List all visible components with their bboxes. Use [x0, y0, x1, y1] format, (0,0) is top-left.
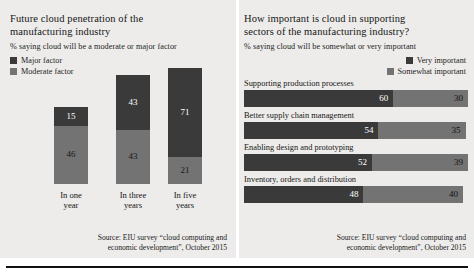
bar-value-very-important: 48	[349, 190, 358, 199]
x-axis-label-in-one-year: In one year	[45, 190, 97, 210]
bar-value-very-important: 52	[358, 158, 367, 167]
bar-value-moderate: 43	[129, 152, 138, 161]
bar-segment-major: 43	[116, 75, 150, 129]
bar-value-very-important: 54	[364, 126, 373, 135]
figure-page: Future cloud penetration of the manufact…	[0, 0, 474, 275]
left-chart-source: Source: EIU survey “cloud computing and …	[98, 233, 227, 252]
bar-row: 60 30	[244, 90, 468, 107]
bar-group-better-supply-chain-management: Better supply chain management 54 35	[244, 110, 468, 139]
bar-segment-very-important: 52	[244, 154, 372, 171]
bar-group-enabling-design-and-prototyping: Enabling design and prototyping 52 39	[244, 142, 468, 171]
bar-column-in-five-years: 71 21	[168, 68, 202, 184]
bar-value-major: 43	[129, 98, 138, 107]
bar-segment-major: 15	[54, 107, 88, 126]
right-chart-title-line1: How important is cloud in supporting	[244, 13, 405, 24]
legend-label-very-important: Very important	[417, 56, 466, 65]
bar-category-label: Inventory, orders and distribution	[244, 174, 468, 185]
bar-group-inventory-orders-and-distribution: Inventory, orders and distribution 48 40	[244, 174, 468, 203]
legend-swatch-icon	[387, 68, 394, 75]
bar-segment-somewhat-important: 35	[378, 122, 465, 139]
bar-segment-somewhat-important: 39	[372, 154, 468, 171]
vertical-stacked-bar-chart: 15 46 43 43 71	[10, 64, 226, 210]
left-chart-panel: Future cloud penetration of the manufact…	[0, 0, 236, 258]
right-source-line2: economic development”, October 2015	[337, 243, 466, 253]
horizontal-stacked-bar-chart: Supporting production processes 60 30 Be…	[244, 78, 468, 206]
bar-value-major: 71	[181, 108, 190, 117]
right-chart-title-line2: sectors of the manufacturing industry?	[244, 25, 466, 38]
bar-category-label: Better supply chain management	[244, 110, 468, 121]
x-axis-label-line1: In five	[174, 190, 197, 200]
x-axis-label-in-three-years: In three years	[107, 190, 159, 210]
x-axis-label-line2: year	[64, 200, 79, 210]
legend-swatch-icon	[406, 57, 413, 64]
x-axis-label-line2: years	[124, 200, 142, 210]
right-chart-source: Source: EIU survey “cloud computing and …	[337, 233, 466, 252]
left-chart-title-line2: manufacturing industry	[10, 25, 226, 38]
bar-segment-somewhat-important: 40	[363, 186, 463, 203]
bar-category-label: Enabling design and prototyping	[244, 142, 468, 153]
bar-row: 52 39	[244, 154, 468, 171]
left-chart-title-line1: Future cloud penetration of the	[10, 13, 143, 24]
bar-segment-moderate: 43	[116, 130, 150, 184]
bar-value-moderate: 46	[67, 150, 76, 159]
bar-column-in-one-year: 15 46	[54, 107, 88, 184]
bar-segment-very-important: 48	[244, 186, 363, 203]
x-axis-label-in-five-years: In five years	[159, 190, 211, 210]
right-chart-panel: How important is cloud in supporting sec…	[236, 0, 474, 258]
bottom-rule-divider	[6, 266, 468, 268]
right-chart-legend: Very important Somewhat important	[244, 55, 466, 76]
chart-panels: Future cloud penetration of the manufact…	[0, 0, 474, 258]
bar-segment-moderate: 46	[54, 126, 88, 184]
bar-row: 54 35	[244, 122, 468, 139]
bar-segment-very-important: 54	[244, 122, 378, 139]
bar-category-label: Supporting production processes	[244, 78, 468, 89]
right-chart-title: How important is cloud in supporting sec…	[244, 12, 466, 38]
bar-segment-major: 71	[168, 68, 202, 158]
left-chart-title: Future cloud penetration of the manufact…	[10, 12, 226, 38]
bar-segment-moderate: 21	[168, 157, 202, 184]
bar-value-very-important: 60	[379, 94, 388, 103]
bar-value-somewhat-important: 40	[449, 190, 458, 199]
panel-divider	[236, 0, 239, 258]
legend-label-somewhat-important: Somewhat important	[398, 67, 466, 76]
bar-segment-somewhat-important: 30	[393, 90, 468, 107]
legend-swatch-icon	[10, 57, 17, 64]
bar-value-somewhat-important: 35	[452, 126, 461, 135]
left-chart-subtitle: % saying cloud will be a moderate or maj…	[10, 42, 226, 52]
x-axis-label-line1: In one	[60, 190, 82, 200]
left-source-line2: economic development”, October 2015	[98, 243, 227, 253]
bar-column-in-three-years: 43 43	[116, 75, 150, 184]
right-chart-subtitle: % saying cloud will be somewhat or very …	[244, 42, 466, 52]
x-axis-label-line2: years	[176, 200, 194, 210]
left-source-line1: Source: EIU survey “cloud computing and	[98, 233, 227, 242]
bar-segment-very-important: 60	[244, 90, 393, 107]
right-source-line1: Source: EIU survey “cloud computing and	[337, 233, 466, 242]
bar-value-moderate: 21	[181, 166, 190, 175]
x-axis-label-line1: In three	[120, 190, 146, 200]
bar-value-somewhat-important: 39	[454, 158, 463, 167]
bar-value-somewhat-important: 30	[454, 94, 463, 103]
bar-group-supporting-production-processes: Supporting production processes 60 30	[244, 78, 468, 107]
legend-item-very-important: Very important	[244, 55, 466, 65]
legend-item-somewhat-important: Somewhat important	[244, 66, 466, 76]
bar-value-major: 15	[67, 112, 76, 121]
bar-row: 48 40	[244, 186, 468, 203]
